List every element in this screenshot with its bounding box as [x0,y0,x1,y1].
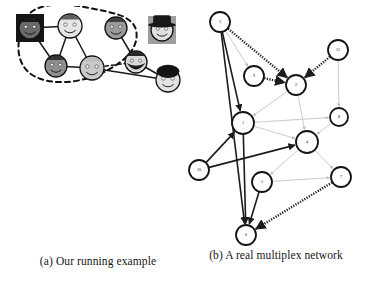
edge-11-2-layer-hatched-black [305,57,330,78]
avatar-bearded-face[interactable] [125,51,147,73]
figure-container: (a) Our running example 3119218410576 (b… [0,0,366,282]
network-node-7[interactable]: 7 [331,167,351,187]
edge-5-6-layer-solid-black [249,192,259,224]
running-example-graph [8,6,188,106]
avatar-eye-right [171,77,174,80]
node-label: 11 [336,47,340,52]
network-node-10[interactable]: 10 [189,160,209,180]
edge-4-5-layer-faint-gray [271,150,299,175]
node-label: 5 [261,179,263,184]
edge-11-8-layer-faint-gray [338,60,339,106]
caption-panel-b: (b) A real multiplex network [186,249,366,261]
network-node-1[interactable]: 1 [232,112,254,134]
avatar-eye-right [59,63,62,66]
avatar-eye-left [64,23,67,26]
avatar-eye-right [73,23,76,26]
node-label: 6 [245,232,247,237]
panel-multiplex-network: 3119218410576 (b) A real multiplex netwo… [186,0,366,276]
avatar-gray-face-top-right[interactable] [105,17,127,39]
avatar-eye-left [50,63,53,66]
node-label: 3 [219,19,221,24]
edge-4-7-layer-faint-gray [315,150,333,169]
node-layer: 3119218410576 [189,12,351,245]
avatar-eye-right [165,27,168,30]
avatar-eye-left [130,59,133,62]
edge-1-4-layer-faint-gray [254,126,295,138]
avatar-dark-square-face[interactable] [16,14,44,42]
avatar-light-face-bottom[interactable] [80,56,104,80]
avatar-eye-right [95,65,98,68]
network-node-4[interactable]: 4 [296,131,318,153]
avatar-eye-left [86,65,89,68]
edge-2-1-layer-faint-gray [253,91,287,116]
avatar-eye-left [24,25,27,28]
edge-2-4-layer-faint-gray [298,95,305,129]
edge-5-7-layer-faint-gray [272,178,329,182]
avatar-eye-left [156,27,159,30]
edge-1-8-layer-faint-gray [254,118,328,123]
caption-panel-a: (a) Our running example [8,255,188,267]
avatar-eye-left [110,25,113,28]
node-layer [16,14,180,92]
avatar-eye-right [119,25,122,28]
avatar-hat-face-isolated[interactable] [148,15,176,44]
network-node-8[interactable]: 8 [330,108,348,126]
edge-8-4-layer-faint-gray [317,123,332,134]
avatar-eye-left [162,77,165,80]
edge-9-2-layer-hatched-black [264,78,284,82]
node-label: 1 [242,120,244,125]
avatar-eye-right [139,59,142,62]
node-label: 10 [197,167,201,172]
node-label: 2 [295,82,297,87]
network-node-6[interactable]: 6 [236,225,256,245]
network-node-9[interactable]: 9 [244,66,264,86]
panel-running-example: (a) Our running example [8,6,188,276]
avatar-curly-hair [157,65,180,78]
avatar-light-face-top[interactable] [58,14,82,38]
node-label: 8 [338,114,340,119]
avatar-hat-crown [153,15,171,25]
node-label: 9 [253,73,255,78]
edge-layer [206,29,339,229]
network-node-5[interactable]: 5 [252,172,272,192]
edge-3-1-layer-solid-black [222,32,240,111]
avatar-eye-right [33,25,36,28]
node-label: 7 [340,174,342,179]
network-node-2[interactable]: 2 [286,75,306,95]
network-node-11[interactable]: 11 [328,40,348,60]
avatar-gray-face-bottom-left[interactable] [45,55,67,77]
network-node-3[interactable]: 3 [210,12,230,32]
avatar-curly-hair-face[interactable] [156,65,180,92]
edge-10-1-layer-solid-black [206,132,234,162]
multiplex-network-graph: 3119218410576 [186,0,366,250]
